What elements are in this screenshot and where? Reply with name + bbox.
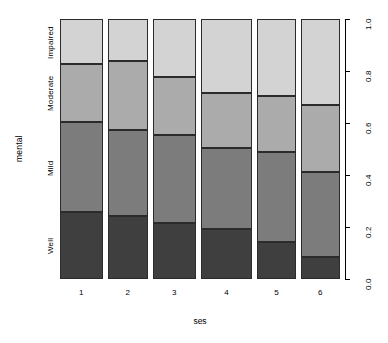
- x-axis-tick-label-4: 4: [206, 288, 246, 297]
- y-axis-tick-label-0.8: 0.8: [364, 70, 373, 82]
- y-axis-tick-label-0.6: 0.6: [364, 122, 373, 134]
- bar-segment-ses-4-well: [201, 229, 253, 279]
- y-axis-tick-0.2: [345, 227, 350, 228]
- y-axis-tick-label-1.0: 1.0: [364, 18, 373, 30]
- bar-segment-ses-5-well: [257, 242, 295, 279]
- bar-segment-ses-5-mild: [257, 152, 295, 242]
- bar-segment-ses-6-well: [301, 257, 340, 279]
- y-axis-level-label-impaired: Impaired: [46, 26, 55, 59]
- y-axis-tick-label-0.0: 0.0: [364, 278, 373, 290]
- bar-segment-ses-1-moderate: [60, 64, 103, 122]
- x-axis-tick-label-3: 3: [154, 288, 194, 297]
- x-axis-tick-label-6: 6: [300, 288, 340, 297]
- bar-segment-ses-2-impaired: [108, 19, 148, 61]
- y-axis-tick-label-0.2: 0.2: [364, 226, 373, 238]
- bar-segment-ses-4-impaired: [201, 19, 253, 93]
- bar-segment-ses-2-moderate: [108, 61, 148, 130]
- y-axis-tick-0.8: [345, 71, 350, 72]
- y-axis-tick-0.0: [345, 279, 350, 280]
- y-axis-level-label-moderate: Moderate: [46, 75, 55, 110]
- bar-segment-ses-6-moderate: [301, 105, 340, 172]
- y-axis-right-line: [345, 19, 346, 279]
- x-axis-tick-label-5: 5: [256, 288, 296, 297]
- y-axis-tick-1.0: [345, 19, 350, 20]
- bar-segment-ses-6-mild: [301, 172, 340, 257]
- bar-segment-ses-6-impaired: [301, 19, 340, 105]
- y-axis-tick-0.6: [345, 123, 350, 124]
- x-axis-tick-label-2: 2: [108, 288, 148, 297]
- bar-segment-ses-5-impaired: [257, 19, 295, 96]
- x-axis-tick-label-1: 1: [61, 288, 101, 297]
- y-axis-title: mental: [14, 135, 24, 162]
- bar-segment-ses-1-impaired: [60, 19, 103, 64]
- bar-segment-ses-3-well: [153, 223, 196, 279]
- x-axis-title: ses: [160, 316, 240, 326]
- bar-segment-ses-3-moderate: [153, 77, 196, 135]
- y-axis-level-label-well: Well: [46, 238, 55, 254]
- bar-segment-ses-4-mild: [201, 148, 253, 229]
- y-axis-tick-0.4: [345, 175, 350, 176]
- bar-segment-ses-2-mild: [108, 130, 148, 216]
- spineplot-figure: 123456ses0.00.20.40.60.81.0WellMildModer…: [0, 0, 388, 343]
- y-axis-level-label-mild: Mild: [46, 160, 55, 175]
- bar-segment-ses-3-impaired: [153, 19, 196, 77]
- bar-segment-ses-4-moderate: [201, 93, 253, 148]
- bar-segment-ses-1-well: [60, 212, 103, 279]
- y-axis-tick-label-0.4: 0.4: [364, 174, 373, 186]
- bar-segment-ses-1-mild: [60, 122, 103, 212]
- bar-segment-ses-5-moderate: [257, 96, 295, 152]
- bar-segment-ses-3-mild: [153, 135, 196, 223]
- bar-segment-ses-2-well: [108, 216, 148, 279]
